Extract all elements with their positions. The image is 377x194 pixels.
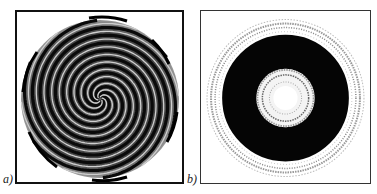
panel-label-b: b) xyxy=(187,172,197,187)
panel-label-a: a) xyxy=(3,172,13,187)
panel-a-spiral-pattern xyxy=(15,10,184,184)
panel-b-ring-pattern xyxy=(200,10,371,184)
spiral-image xyxy=(17,12,182,182)
rings-image xyxy=(201,11,370,183)
